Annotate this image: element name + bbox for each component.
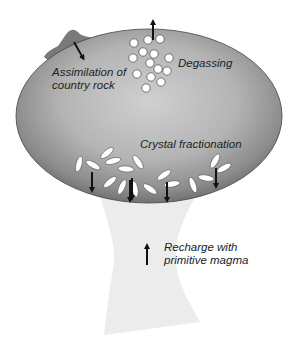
label-recharge: Recharge with primitive magma <box>164 241 248 267</box>
label-line: Crystal fractionation <box>140 138 242 151</box>
label-line: Degassing <box>178 57 232 70</box>
label-line: Recharge with <box>164 241 248 254</box>
label-line: country rock <box>52 79 126 92</box>
label-assimilation: Assimilation of country rock <box>52 66 126 92</box>
magma-chamber-diagram <box>0 0 295 347</box>
magma-chamber <box>16 29 282 203</box>
label-crystal-fractionation: Crystal fractionation <box>140 138 242 151</box>
label-line: primitive magma <box>164 254 248 267</box>
label-line: Assimilation of <box>52 66 126 79</box>
label-degassing: Degassing <box>178 57 232 70</box>
